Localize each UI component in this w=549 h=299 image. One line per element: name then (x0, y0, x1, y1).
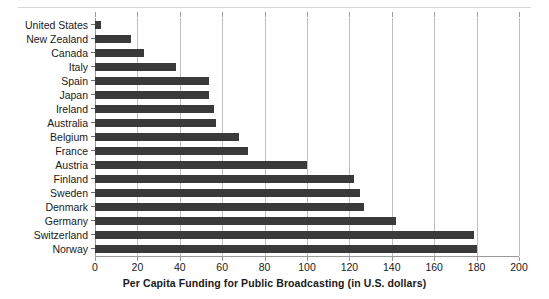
bar-row: Australia (95, 116, 519, 130)
bar-row: Canada (95, 46, 519, 60)
bar (95, 231, 474, 239)
chart-figure: United StatesNew ZealandCanadaItalySpain… (0, 0, 549, 299)
bar (95, 35, 131, 43)
category-label: Australia (47, 116, 88, 130)
x-tick-label-20: 20 (132, 261, 144, 273)
plot-area: United StatesNew ZealandCanadaItalySpain… (95, 18, 519, 256)
bar (95, 161, 307, 169)
category-label: Spain (61, 74, 88, 88)
x-axis-top-tick-180 (477, 12, 478, 17)
x-tick-label-100: 100 (298, 261, 316, 273)
gridline-200 (519, 18, 520, 256)
bar (95, 105, 214, 113)
category-label: Switzerland (34, 228, 88, 242)
category-label: Finland (54, 172, 88, 186)
category-label: New Zealand (26, 32, 88, 46)
bar (95, 119, 216, 127)
category-label: Canada (51, 46, 88, 60)
x-axis-title: Per Capita Funding for Public Broadcasti… (0, 277, 549, 289)
x-tick-label-140: 140 (383, 261, 401, 273)
bar-row: United States (95, 18, 519, 32)
x-axis-top-tick-60 (222, 12, 223, 17)
x-tick-label-40: 40 (174, 261, 186, 273)
bar-row: Switzerland (95, 228, 519, 242)
bar-row: Japan (95, 88, 519, 102)
x-axis-top-tick-0 (95, 12, 96, 17)
bar-row: Germany (95, 214, 519, 228)
bar (95, 203, 364, 211)
category-label: Germany (45, 214, 88, 228)
x-axis-top-tick-100 (307, 12, 308, 17)
x-axis-top-tick-140 (392, 12, 393, 17)
category-label: Ireland (56, 102, 88, 116)
bar (95, 91, 209, 99)
category-label: Sweden (50, 186, 88, 200)
figure-top-rule (18, 7, 531, 8)
bar-row: France (95, 144, 519, 158)
x-axis-top-tick-40 (180, 12, 181, 17)
bar (95, 21, 101, 29)
bar (95, 77, 209, 85)
bar-row: Sweden (95, 186, 519, 200)
x-axis-top-tick-200 (519, 12, 520, 17)
bar (95, 133, 239, 141)
bar-row: Belgium (95, 130, 519, 144)
x-tick-label-160: 160 (425, 261, 443, 273)
bar-row: Finland (95, 172, 519, 186)
x-axis-top-tick-20 (137, 12, 138, 17)
x-axis-top-tick-120 (349, 12, 350, 17)
bar (95, 175, 354, 183)
bar (95, 245, 477, 253)
x-tick-label-80: 80 (259, 261, 271, 273)
x-tick-label-180: 180 (468, 261, 486, 273)
bar (95, 63, 176, 71)
category-label: United States (25, 18, 88, 32)
x-axis-top-tick-160 (434, 12, 435, 17)
category-label: Italy (69, 60, 88, 74)
x-axis-top-tick-80 (265, 12, 266, 17)
category-label: Norway (52, 242, 88, 256)
bar-row: New Zealand (95, 32, 519, 46)
bar-row: Austria (95, 158, 519, 172)
category-label: Belgium (50, 130, 88, 144)
category-label: France (55, 144, 88, 158)
bar-row: Italy (95, 60, 519, 74)
category-label: Denmark (45, 200, 88, 214)
bar-row: Norway (95, 242, 519, 256)
bar-row: Ireland (95, 102, 519, 116)
category-label: Austria (55, 158, 88, 172)
bar (95, 217, 396, 225)
bar-row: Denmark (95, 200, 519, 214)
x-tick-label-200: 200 (510, 261, 528, 273)
x-tick-label-120: 120 (341, 261, 359, 273)
category-label: Japan (59, 88, 88, 102)
bar (95, 147, 248, 155)
x-tick-label-60: 60 (216, 261, 228, 273)
x-tick-label-0: 0 (92, 261, 98, 273)
bar (95, 49, 144, 57)
bar (95, 189, 360, 197)
bar-row: Spain (95, 74, 519, 88)
